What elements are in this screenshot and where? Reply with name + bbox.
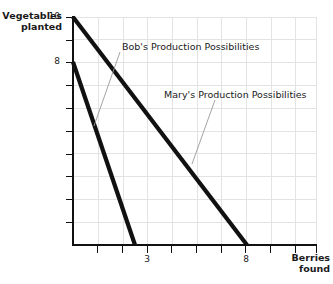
gridline-horizontal [73, 39, 316, 40]
y-axis-tick [66, 85, 73, 86]
x-tick-label-3: 3 [135, 254, 159, 264]
y-tick-label-8: 8 [36, 56, 60, 66]
annotation-bob-production-possibilities: Bob's Production Possibilities [122, 41, 259, 52]
gridline-horizontal [73, 222, 316, 223]
x-axis-tick [97, 246, 98, 253]
y-axis-tick [66, 108, 73, 109]
x-axis-tick [245, 246, 246, 253]
y-axis-tick [66, 222, 73, 223]
x-axis-tick [221, 246, 222, 253]
x-axis-title: Berries found [268, 252, 330, 274]
y-axis-tick [66, 62, 73, 63]
gridline-horizontal [73, 85, 316, 86]
y-axis-tick [66, 199, 73, 200]
x-axis-tick [171, 246, 172, 253]
chart-container: Vegetables planted Berries found [0, 0, 333, 284]
y-axis-tick [66, 131, 73, 132]
gridline-horizontal [73, 199, 316, 200]
x-axis-tick [316, 246, 317, 253]
x-axis-tick [196, 246, 197, 253]
x-axis-line [72, 244, 317, 246]
annotation-mary-production-possibilities: Mary's Production Possibilities [164, 89, 307, 100]
x-tick-label-8: 8 [234, 254, 258, 264]
y-axis-tick [66, 17, 73, 18]
y-axis-tick [66, 176, 73, 177]
gridline-horizontal [73, 131, 316, 132]
x-axis-tick [122, 246, 123, 253]
gridline-horizontal [73, 153, 316, 154]
gridline-horizontal [73, 62, 316, 63]
gridline-horizontal [73, 17, 316, 18]
y-axis-tick [66, 40, 73, 41]
y-axis-tick [66, 154, 73, 155]
x-axis-tick [147, 246, 148, 253]
gridline-horizontal [73, 176, 316, 177]
x-axis-tick [270, 246, 271, 253]
y-tick-label-10: 10 [36, 11, 60, 21]
x-axis-tick [295, 246, 296, 253]
gridline-vertical [316, 17, 317, 245]
gridline-horizontal [73, 108, 316, 109]
